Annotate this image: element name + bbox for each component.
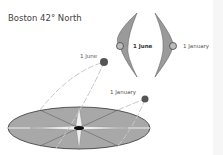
title-label: Boston 42° North [8, 13, 82, 23]
june-sun-icon [100, 58, 108, 66]
january-crescent [155, 13, 177, 77]
observer-point [74, 126, 84, 130]
january-sun-icon [142, 96, 149, 103]
horizon-disk [8, 106, 150, 150]
june-sun-label: 1 June [80, 53, 98, 60]
january-moon-icon [170, 43, 177, 50]
january-crescent-label: 1 January [183, 43, 210, 50]
sun-path-diagram: Boston 42° North 1 June 1 January [0, 0, 223, 155]
january-sun-label: 1 January [110, 89, 137, 96]
june-crescent-label: 1 June [133, 43, 153, 50]
diagram-canvas: Boston 42° North 1 June 1 January [0, 0, 223, 155]
june-moon-icon [117, 43, 124, 50]
